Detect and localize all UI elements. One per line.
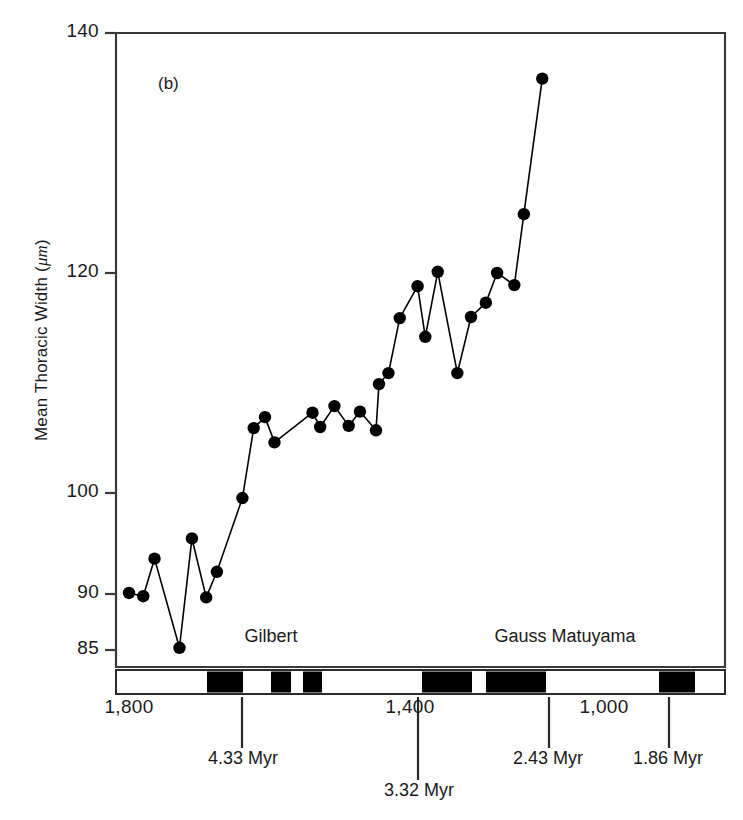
data-point	[382, 367, 394, 379]
y-tick-label: 100	[29, 480, 99, 502]
data-point	[480, 297, 492, 309]
data-point	[123, 587, 135, 599]
data-point	[200, 591, 212, 603]
data-point	[186, 532, 198, 544]
data-series-line	[129, 79, 542, 648]
data-point	[373, 378, 385, 390]
data-point	[342, 420, 354, 432]
x-tick-label: 1,800	[84, 696, 174, 718]
plot-frame	[116, 33, 725, 667]
data-point	[328, 400, 340, 412]
data-point	[432, 266, 444, 278]
y-tick-label: 120	[29, 260, 99, 282]
y-tick-marks	[105, 33, 116, 650]
data-point	[411, 280, 423, 292]
data-point	[173, 642, 185, 654]
data-point	[137, 590, 149, 602]
data-series-points	[123, 72, 549, 654]
data-point	[211, 566, 223, 578]
data-point	[394, 312, 406, 324]
x-tick-label: 1,000	[559, 696, 649, 718]
data-point	[148, 552, 160, 564]
data-point	[518, 208, 530, 220]
data-point	[314, 421, 326, 433]
data-point	[268, 436, 280, 448]
data-point	[306, 407, 318, 419]
data-point	[247, 422, 259, 434]
data-point	[259, 411, 271, 423]
polarity-bar	[116, 670, 725, 694]
data-point	[370, 424, 382, 436]
y-tick-label: 140	[29, 20, 99, 42]
y-tick-label: 90	[29, 581, 99, 603]
age-label: 1.86 Myr	[633, 748, 703, 769]
data-point	[354, 405, 366, 417]
chron-label: Gilbert	[244, 626, 297, 647]
chron-label: Gauss Matuyama	[494, 626, 635, 647]
data-point	[451, 367, 463, 379]
x-tick-label: 1,400	[365, 696, 455, 718]
data-point	[465, 311, 477, 323]
data-point	[536, 72, 548, 84]
age-label: 2.43 Myr	[513, 748, 583, 769]
data-point	[508, 279, 520, 291]
y-tick-label: 85	[29, 637, 99, 659]
figure-panel-b: Mean Thoracic Width (μm) (b) 14012010090…	[0, 0, 743, 820]
age-label: 4.33 Myr	[208, 748, 278, 769]
age-label: 3.32 Myr	[384, 780, 454, 801]
data-point	[419, 331, 431, 343]
data-point	[236, 492, 248, 504]
data-point	[491, 267, 503, 279]
